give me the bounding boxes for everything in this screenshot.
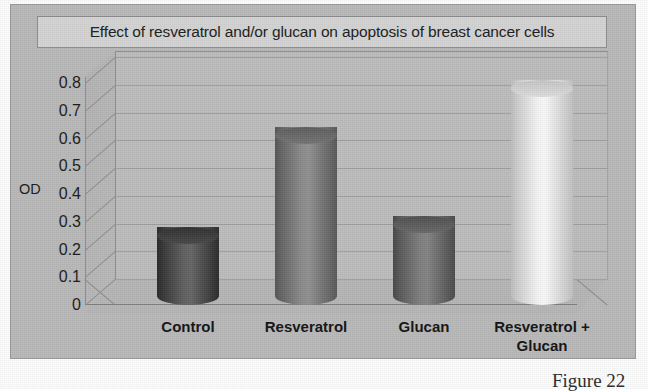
chart-container: Effect of resveratrol and/or glucan on a… [10,4,636,359]
x-tick-label-line: Glucan [517,337,568,354]
y-tick-label: 0.7 [39,102,81,120]
y-tick-label: 0.6 [39,130,81,148]
bar-body [275,127,337,305]
y-tick-label: 0.4 [39,185,81,203]
y-tick-label: 0.2 [39,241,81,259]
x-tick-label: Resveratrol +Glucan [462,317,622,355]
bar-top-ellipse [511,80,573,97]
y-tick-label: 0.3 [39,213,81,231]
y-tick-label: 0.8 [39,74,81,92]
x-tick-label-line: Resveratrol + [494,318,589,335]
x-tick-label-line: Control [161,318,214,335]
y-tick-label: 0.5 [39,157,81,175]
bar-cylinder [393,216,455,305]
bar-cylinder [275,127,337,305]
plot-area: ControlResveratrolGlucanResveratrol +Glu… [11,5,637,360]
bar-top-ellipse [157,227,219,244]
bar-cylinder [511,80,573,305]
bar-cylinder [157,227,219,305]
x-tick-label-line: Glucan [399,318,450,335]
bar-top-ellipse [275,127,337,144]
x-tick-label-line: Resveratrol [265,318,348,335]
y-tick-label: 0 [39,296,81,314]
gridline [115,57,607,58]
bar-top-ellipse [393,216,455,233]
bar-body [511,80,573,305]
figure-caption: Figure 22 [552,370,625,392]
plot-floor-right-edge [577,279,609,306]
y-tick-label: 0.1 [39,268,81,286]
y-axis-title: OD [19,181,41,197]
